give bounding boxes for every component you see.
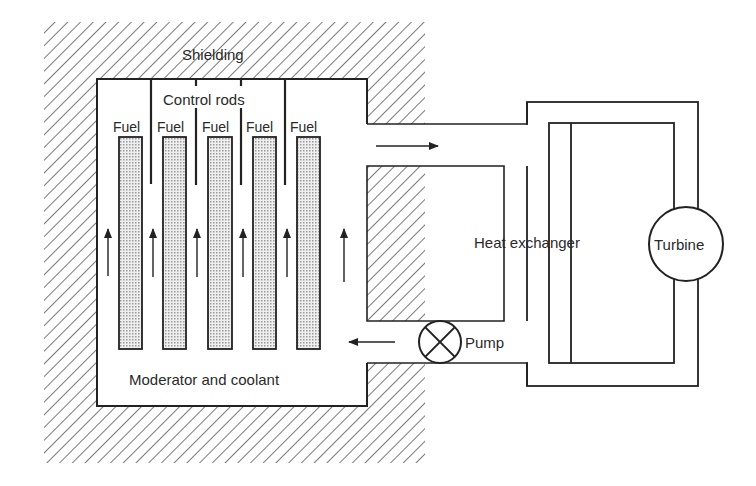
label-control-rods: Control rods	[163, 91, 245, 108]
label-fuel: Fuel	[290, 119, 317, 135]
fuel-rod	[253, 137, 276, 349]
pump-icon	[419, 321, 461, 363]
fuel-rod	[208, 137, 232, 349]
label-heat-exchanger: Heat exchanger	[474, 234, 580, 251]
label-fuel: Fuel	[202, 119, 229, 135]
label-fuel: Fuel	[246, 119, 273, 135]
label-fuel: Fuel	[157, 119, 184, 135]
label-moderator: Moderator and coolant	[129, 371, 280, 388]
label-fuel: Fuel	[113, 119, 140, 135]
label-shielding: Shielding	[182, 46, 244, 63]
label-turbine: Turbine	[654, 236, 704, 253]
fuel-rod	[163, 137, 186, 349]
fuel-rod	[297, 137, 320, 349]
fuel-rod	[119, 137, 142, 349]
label-pump: Pump	[465, 334, 504, 351]
reactor-diagram: Shielding Control rods Fuel Fuel Fuel Fu…	[0, 0, 756, 486]
